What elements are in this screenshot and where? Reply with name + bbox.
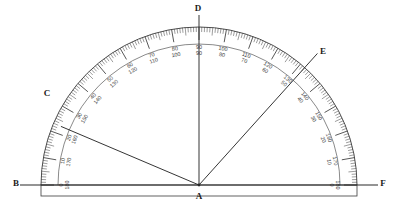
minor-tick [166, 30, 167, 35]
minor-tick [223, 29, 224, 34]
inner-scale-number-60: 60 [261, 66, 269, 74]
minor-tick [180, 28, 181, 33]
minor-tick [43, 160, 48, 161]
minor-tick [218, 28, 219, 33]
inner-scale-number-10: 10 [326, 159, 333, 166]
point-labels: BAFCDE [13, 3, 386, 201]
minor-tick [266, 43, 268, 47]
minor-tick [285, 54, 288, 58]
inner-scale-number-170: 170 [65, 157, 72, 167]
minor-tick [102, 60, 105, 64]
minor-tick [273, 47, 275, 51]
point-label-C: C [44, 88, 51, 98]
minor-tick [177, 29, 178, 34]
point-label-D: D [195, 3, 202, 13]
minor-tick [95, 66, 98, 70]
minor-tick [76, 86, 80, 89]
inner-scale-number-30: 30 [310, 115, 318, 123]
minor-tick [54, 123, 59, 125]
minor-tick [161, 32, 162, 37]
minor-tick [68, 97, 72, 100]
minor-tick [326, 97, 330, 100]
minor-tick [347, 147, 352, 148]
minor-tick [125, 45, 127, 49]
minor-tick [291, 59, 294, 63]
minor-tick [271, 45, 273, 49]
inner-scale-number-70: 70 [240, 57, 248, 65]
point-label-B: B [13, 178, 19, 188]
minor-tick [55, 121, 60, 123]
minor-tick [49, 136, 54, 138]
minor-tick [337, 116, 341, 118]
minor-tick [150, 35, 152, 40]
major-tick [292, 64, 300, 74]
minor-tick [42, 168, 47, 169]
major-tick [97, 64, 105, 74]
minor-tick [111, 54, 114, 58]
major-tick [342, 158, 355, 160]
minor-tick [254, 37, 256, 42]
major-tick [224, 29, 226, 42]
minor-tick [335, 118, 342, 121]
minor-tick [83, 77, 87, 80]
minor-tick [89, 71, 92, 75]
minor-tick [91, 69, 94, 73]
minor-tick [299, 66, 302, 70]
major-tick [172, 29, 174, 42]
minor-tick [44, 152, 49, 153]
minor-tick [104, 59, 107, 63]
minor-tick [66, 99, 70, 102]
minor-tick [169, 30, 170, 35]
major-tick [325, 106, 336, 113]
minor-tick [115, 51, 118, 55]
minor-tick [85, 75, 89, 78]
minor-tick [158, 32, 160, 40]
minor-tick [43, 163, 48, 164]
minor-tick [259, 40, 261, 45]
minor-tick [228, 30, 229, 35]
minor-tick [42, 171, 50, 172]
minor-tick [58, 113, 62, 115]
minor-tick [314, 81, 318, 84]
minor-tick [262, 42, 265, 49]
minor-tick [323, 92, 327, 95]
minor-tick [351, 166, 356, 167]
minor-tick [182, 28, 183, 33]
point-label-E: E [320, 46, 326, 56]
minor-tick [318, 86, 322, 89]
minor-tick [80, 81, 84, 84]
minor-tick [65, 101, 69, 104]
minor-tick [278, 50, 281, 54]
center-point-A [198, 184, 201, 187]
minor-tick [349, 152, 354, 153]
minor-tick [333, 108, 337, 110]
minor-tick [106, 57, 109, 61]
minor-tick [351, 163, 356, 164]
inner-scale-number-100: 100 [171, 51, 181, 58]
minor-tick [140, 39, 142, 44]
minor-tick [46, 147, 51, 148]
minor-tick [122, 47, 124, 51]
minor-tick [340, 123, 345, 125]
minor-tick [56, 118, 63, 121]
minor-tick [82, 79, 86, 82]
major-tick [78, 83, 88, 91]
minor-tick [348, 149, 353, 150]
ray-AC [61, 126, 199, 185]
minor-tick [303, 69, 306, 73]
minor-tick [330, 104, 334, 107]
diagram-canvas: 0180101702016030150401405013060120701108… [0, 0, 397, 206]
minor-tick [135, 41, 137, 46]
protractor-diagram: 0180101702016030150401405013060120701108… [0, 0, 397, 206]
minor-tick [212, 28, 213, 36]
minor-tick [48, 139, 53, 140]
minor-tick [50, 134, 55, 136]
inner-scale-number-20: 20 [320, 136, 328, 144]
minor-tick [47, 141, 52, 142]
minor-tick [74, 88, 78, 91]
major-tick [62, 106, 73, 113]
minor-tick [51, 128, 56, 130]
minor-tick [53, 126, 58, 128]
minor-tick [256, 39, 258, 44]
minor-tick [345, 136, 350, 138]
